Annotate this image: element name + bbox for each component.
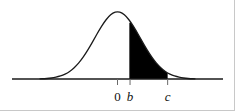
tick-label-b: b: [120, 90, 140, 103]
normal-distribution-figure: 0bc: [0, 0, 235, 111]
bell-curve: [40, 12, 195, 79]
shaded-region: [40, 12, 195, 79]
x-axis-tick-marks: [118, 79, 168, 85]
tick-label-c: c: [158, 90, 178, 103]
